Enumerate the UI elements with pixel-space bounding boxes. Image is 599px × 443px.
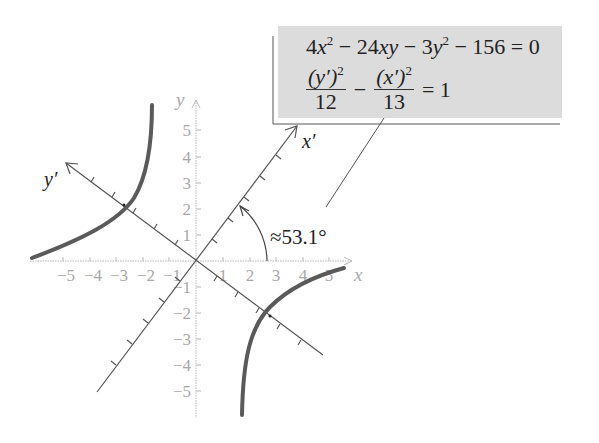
fraction-x-prime: (x′)2 13 <box>374 66 414 114</box>
svg-text:−2: −2 <box>173 304 191 323</box>
svg-text:2: 2 <box>183 200 192 219</box>
svg-text:−3: −3 <box>173 330 191 349</box>
general-form-equation: 4x2 − 24xy − 3y2 − 156 = 0 <box>306 34 540 60</box>
angle-label: ≈53.1° <box>270 225 327 249</box>
numerator: (y′)2 <box>306 66 346 90</box>
numerator-text: (y′) <box>308 64 337 89</box>
equation-callout: 4x2 − 24xy − 3y2 − 156 = 0 (y′)2 12 − (x… <box>270 26 598 121</box>
denominator: 13 <box>383 90 405 114</box>
exp-2: 2 <box>327 33 334 48</box>
term-3: − 3 <box>404 34 433 59</box>
coef-4: 4 <box>306 34 317 59</box>
svg-text:5: 5 <box>183 121 192 140</box>
svg-text:3: 3 <box>272 266 281 285</box>
numerator-text: (x′) <box>376 64 405 89</box>
denominator: 12 <box>315 90 337 114</box>
exp-2: 2 <box>337 63 344 78</box>
svg-text:4: 4 <box>183 148 192 167</box>
x-prime-label: x′ <box>301 130 316 152</box>
numerator: (x′)2 <box>374 66 414 90</box>
var-x: x <box>317 34 327 59</box>
fraction-y-prime: (y′)2 12 <box>306 66 346 114</box>
y-prime-axis <box>66 163 323 355</box>
exp-2: 2 <box>405 63 412 78</box>
svg-text:−4: −4 <box>84 266 103 285</box>
y-prime-label: y′ <box>42 168 58 191</box>
minus-sign: − <box>354 77 366 103</box>
svg-text:−4: −4 <box>173 356 192 375</box>
y-axis-label: y <box>174 89 185 110</box>
var-xy: xy <box>379 34 399 59</box>
x-tick-labels: −5 −4 −3 −2 −1 1 2 3 4 5 <box>57 266 333 285</box>
svg-text:1: 1 <box>183 226 192 245</box>
x-axis-label: x <box>353 264 363 285</box>
svg-text:−2: −2 <box>137 266 155 285</box>
svg-text:−5: −5 <box>57 266 75 285</box>
svg-text:3: 3 <box>183 174 192 193</box>
vertex-point-upper <box>123 204 126 207</box>
var-y: y <box>433 34 443 59</box>
exp-2: 2 <box>442 33 449 48</box>
term-156: − 156 = 0 <box>454 34 539 59</box>
svg-text:−3: −3 <box>110 266 128 285</box>
hyperbola-branch-lower-right <box>242 268 344 415</box>
standard-form-equation: (y′)2 12 − (x′)2 13 = 1 <box>306 66 459 114</box>
x-axis <box>30 257 352 265</box>
svg-text:2: 2 <box>246 266 255 285</box>
term-24: − 24 <box>339 34 379 59</box>
equals-one: = 1 <box>422 77 451 103</box>
angle-arc <box>240 206 267 261</box>
vertex-point-lower <box>269 315 272 318</box>
svg-text:−5: −5 <box>173 382 191 401</box>
